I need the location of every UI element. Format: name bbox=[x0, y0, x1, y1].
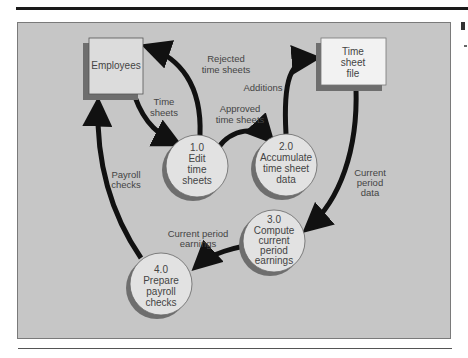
process-label-line-4: sheets bbox=[182, 175, 211, 186]
process-1-edit-time-sheets: 1.0 Edit time sheets bbox=[162, 135, 228, 201]
process-label-line-1: 2.0 bbox=[279, 141, 293, 152]
process-label-line-1: 3.0 bbox=[267, 214, 281, 225]
process-label-line-2: Edit bbox=[188, 153, 205, 164]
process-label-line-1: 4.0 bbox=[154, 264, 168, 275]
process-label-line-3: payroll bbox=[146, 286, 175, 297]
flow-label-additions: Additions bbox=[243, 82, 282, 93]
flow-label-current-period-data-3: data bbox=[361, 187, 380, 198]
process-3-compute-current-period-earnings: 3.0 Compute current period earnings bbox=[239, 210, 305, 276]
process-label-line-3: time bbox=[188, 164, 207, 175]
flow-label-time-sheets-2: sheets bbox=[150, 107, 178, 118]
store-label-line-2: sheet bbox=[341, 57, 366, 68]
flow-label-rejected-2: time sheets bbox=[202, 64, 251, 75]
data-flow-diagram: Employees Time sheet file 1.0 Edit time … bbox=[0, 0, 468, 358]
process-label-line-2: Prepare bbox=[143, 275, 179, 286]
process-label-line-5: earnings bbox=[255, 255, 293, 266]
process-label-line-2: Accumulate bbox=[260, 152, 313, 163]
flow-label-time-sheets-1: Time bbox=[154, 96, 175, 107]
flow-arrow-additions bbox=[285, 58, 314, 134]
process-4-prepare-payroll-checks: 4.0 Prepare payroll checks bbox=[126, 253, 192, 319]
process-2-accumulate-time-sheet-data: 2.0 Accumulate time sheet data bbox=[251, 134, 317, 200]
store-label-line-3: file bbox=[347, 68, 360, 79]
flow-label-approved-2: time sheets bbox=[216, 114, 265, 125]
flow-label-rejected-1: Rejected bbox=[207, 53, 245, 64]
process-label-line-1: 1.0 bbox=[190, 142, 204, 153]
process-label-line-4: data bbox=[276, 174, 296, 185]
flow-label-approved-1: Approved bbox=[220, 103, 261, 114]
data-store-time-sheet-file: Time sheet file bbox=[316, 38, 386, 91]
flow-arrow-rejected-time-sheets bbox=[148, 47, 200, 135]
flow-label-payroll-checks-2: checks bbox=[111, 179, 141, 190]
flow-label-current-period-earnings-2: earnings bbox=[180, 238, 217, 249]
store-label-line-1: Time bbox=[342, 46, 364, 57]
entity-label: Employees bbox=[91, 60, 140, 71]
process-label-line-4: checks bbox=[145, 297, 176, 308]
external-entity-employees: Employees bbox=[83, 38, 143, 100]
process-label-line-3: time sheet bbox=[263, 163, 309, 174]
